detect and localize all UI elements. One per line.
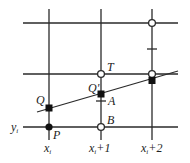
point-mid-right — [149, 71, 156, 78]
point-upper-right — [149, 20, 156, 27]
label-y-i: yi — [10, 120, 18, 135]
point-q — [46, 105, 53, 112]
label-q-prime: Q' — [88, 81, 100, 95]
label-x-i-plus-2: xi+2 — [140, 141, 162, 156]
point-b — [98, 124, 105, 131]
label-b: B — [107, 113, 115, 127]
point-p — [45, 123, 52, 130]
label-x-i-plus-1: xi+1 — [88, 141, 110, 156]
point-t — [98, 71, 105, 78]
label-x-i: xi — [43, 141, 51, 156]
point-next-pixel — [149, 77, 156, 84]
label-q: Q — [36, 93, 45, 107]
label-p: P — [52, 128, 61, 142]
diagram-canvas: P Q Q' T A B yi xi xi+1 xi+2 — [0, 0, 190, 163]
label-a: A — [107, 94, 116, 108]
label-t: T — [107, 60, 115, 74]
